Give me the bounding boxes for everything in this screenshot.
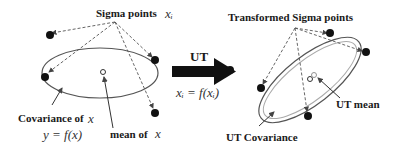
transformed-sigma-points-label: Transformed Sigma points — [228, 12, 353, 23]
covariance-pointer-arrow — [52, 88, 62, 105]
sigma-point — [41, 73, 49, 81]
mean-symbol: x — [155, 127, 161, 140]
sigma-point — [151, 56, 159, 64]
ut-mean-point-secondary — [312, 73, 317, 78]
sigma-point — [257, 84, 265, 92]
sigma-point — [304, 112, 312, 120]
sigma-point — [151, 109, 159, 117]
mean-point — [101, 70, 106, 75]
sigma-point — [226, 66, 234, 74]
sigma-points — [41, 31, 159, 117]
covariance-symbol: x — [88, 112, 94, 125]
sigma-points-symbol: xᵢ — [165, 7, 173, 20]
ut-covariance-label: UT Covariance — [226, 132, 298, 143]
sigma-point-rays — [49, 22, 153, 108]
covariance-label: Covariance of — [18, 113, 84, 124]
function-label: y = f(x) — [43, 128, 82, 141]
transform-equation: xᵢ = f(xᵢ) — [176, 86, 219, 99]
mean-label: mean of — [110, 129, 148, 140]
ut-mean-point — [308, 77, 313, 82]
covariance-ellipse — [42, 48, 158, 98]
sigma-points-label: Sigma points — [96, 8, 157, 19]
sigma-point — [46, 31, 54, 39]
sigma-point — [326, 29, 334, 37]
mean-pointer-arrow — [104, 77, 113, 128]
transform-label: UT — [190, 50, 208, 63]
sigma-point — [362, 48, 370, 56]
ut-mean-label: UT mean — [336, 99, 380, 110]
right-panel — [226, 23, 374, 137]
